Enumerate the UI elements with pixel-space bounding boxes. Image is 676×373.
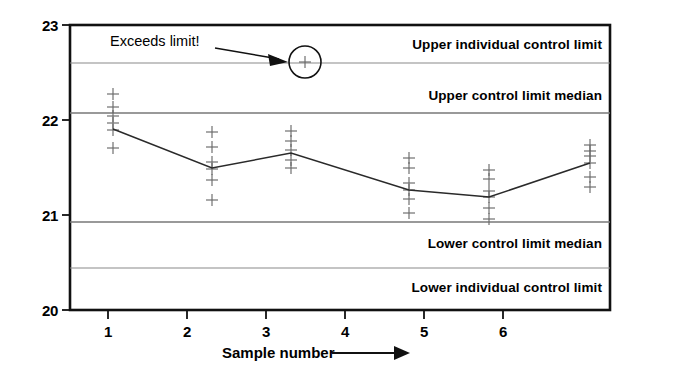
x-tick-label-1: 1 (96, 323, 120, 340)
x-axis-direction-arrow (330, 344, 420, 364)
upper-control-limit-median-label: Upper control limit median (400, 88, 602, 103)
x-tick-label-3: 3 (254, 323, 278, 340)
y-tick-label-20: 20 (22, 302, 58, 319)
y-tick-label-22: 22 (22, 112, 58, 129)
y-tick-label-23: 23 (22, 17, 58, 34)
x-tick-label-5: 5 (412, 323, 436, 340)
x-tick-label-2: 2 (175, 323, 199, 340)
x-axis-title: Sample number (222, 344, 335, 361)
y-tick-label-21: 21 (22, 207, 58, 224)
exceeds-limit-annotation: Exceeds limit! (110, 33, 199, 49)
lower-control-limit-median-label: Lower control limit median (400, 236, 602, 251)
plot-frame (70, 25, 610, 310)
control-chart: 23 22 21 20 1 2 3 4 5 6 Upper individual… (0, 0, 676, 373)
chart-plot-area (0, 0, 676, 373)
lower-individual-control-limit-label: Lower individual control limit (400, 280, 602, 295)
x-tick-label-4: 4 (333, 323, 357, 340)
x-tick-label-6: 6 (491, 323, 515, 340)
x-axis-ticks (108, 310, 503, 319)
upper-individual-control-limit-label: Upper individual control limit (400, 37, 602, 52)
